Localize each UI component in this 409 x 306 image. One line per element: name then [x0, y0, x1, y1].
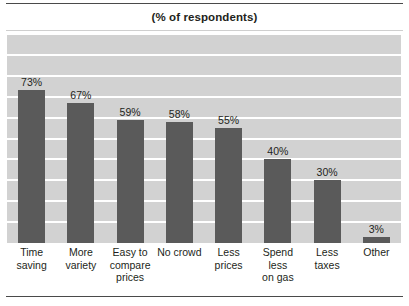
bar	[264, 159, 291, 243]
category-label-line: saving	[7, 259, 56, 272]
chart-title: (% of respondents)	[0, 11, 409, 23]
bar	[67, 103, 94, 243]
category-label-line: Easy to	[106, 246, 155, 259]
category-label-line: less	[253, 259, 302, 272]
plot-area	[7, 34, 401, 243]
category-label: Spendlesson gas	[253, 246, 302, 284]
bar	[117, 120, 144, 243]
category-label-line: on gas	[253, 271, 302, 284]
title-underline-rule	[6, 30, 403, 31]
category-label-line: prices	[106, 271, 155, 284]
category-label-line: Spend	[253, 246, 302, 259]
category-label: Lesstaxes	[303, 246, 352, 271]
bar-value-label: 30%	[303, 166, 352, 178]
bar	[215, 128, 242, 243]
category-label: Other	[352, 246, 401, 259]
category-label-line: variety	[56, 259, 105, 272]
category-label: Lessprices	[204, 246, 253, 271]
bar	[18, 90, 45, 243]
category-label: Easy tocompareprices	[106, 246, 155, 284]
bar-value-label: 59%	[106, 106, 155, 118]
category-label: No crowd	[155, 246, 204, 259]
category-label: Morevariety	[56, 246, 105, 271]
category-label-line: No crowd	[155, 246, 204, 259]
bar-value-label: 73%	[7, 76, 56, 88]
category-label-line: More	[56, 246, 105, 259]
category-label: Timesaving	[7, 246, 56, 271]
bar	[314, 180, 341, 243]
bar-value-label: 55%	[204, 114, 253, 126]
bar-value-label: 40%	[253, 145, 302, 157]
bar-value-label: 67%	[56, 89, 105, 101]
category-axis-labels: TimesavingMorevarietyEasy tocompareprice…	[7, 246, 401, 294]
bar-series	[7, 34, 401, 243]
category-label-line: Less	[303, 246, 352, 259]
bar-value-label: 3%	[352, 223, 401, 235]
category-label-line: compare	[106, 259, 155, 272]
bar-value-label: 58%	[155, 108, 204, 120]
chart-figure: (% of respondents) 73%67%59%58%55%40%30%…	[0, 0, 409, 306]
category-label-line: prices	[204, 259, 253, 272]
category-label-line: Time	[7, 246, 56, 259]
top-rule	[6, 3, 403, 4]
bar	[363, 237, 390, 243]
bar	[166, 122, 193, 243]
bottom-rule	[6, 296, 403, 297]
category-label-line: Less	[204, 246, 253, 259]
category-label-line: taxes	[303, 259, 352, 272]
category-label-line: Other	[352, 246, 401, 259]
